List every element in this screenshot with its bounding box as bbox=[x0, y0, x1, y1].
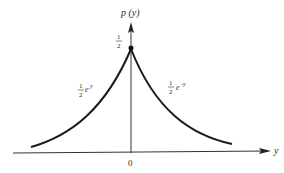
peak-point bbox=[129, 46, 134, 51]
svg-text:1: 1 bbox=[79, 82, 83, 90]
svg-text:e: e bbox=[85, 85, 89, 94]
left-curve-label: 1 2 e y bbox=[78, 82, 93, 99]
svg-text:2: 2 bbox=[117, 42, 121, 50]
right-curve bbox=[131, 49, 232, 144]
svg-text:1: 1 bbox=[117, 33, 121, 41]
origin-tick-label: 0 bbox=[128, 158, 133, 168]
svg-text:y: y bbox=[89, 83, 93, 89]
x-axis bbox=[13, 151, 268, 153]
right-curve-label: 1 2 e -y bbox=[168, 79, 186, 96]
half-tick-label: 1 2 bbox=[116, 33, 122, 50]
svg-text:e: e bbox=[176, 83, 180, 92]
svg-text:1: 1 bbox=[169, 79, 173, 87]
laplace-density-plot: p (y) y 0 1 2 1 2 e y 1 2 e -y bbox=[0, 0, 284, 173]
x-axis-label: y bbox=[273, 145, 279, 156]
svg-text:-y: -y bbox=[181, 81, 186, 87]
svg-text:2: 2 bbox=[169, 88, 173, 96]
svg-text:2: 2 bbox=[79, 91, 83, 99]
y-axis-label: p (y) bbox=[120, 7, 140, 19]
